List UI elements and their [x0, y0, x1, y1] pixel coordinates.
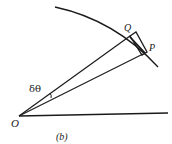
diagram-canvas: δθ O Q P (b)	[0, 0, 172, 144]
arc	[55, 7, 158, 67]
radius-oq	[19, 36, 130, 116]
point-label-o: O	[11, 117, 19, 129]
point-label-q: Q	[124, 22, 132, 33]
angle-arc	[50, 93, 51, 98]
point-label-p: P	[148, 42, 155, 53]
angle-label: δθ	[29, 83, 41, 94]
baseline	[19, 113, 168, 116]
figure-caption: (b)	[56, 131, 68, 143]
